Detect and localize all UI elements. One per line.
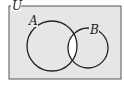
universe-label: U	[12, 0, 23, 13]
set-b-label: B	[89, 23, 99, 37]
set-a-label: A	[28, 14, 38, 28]
venn-diagram: U A B	[0, 0, 124, 87]
